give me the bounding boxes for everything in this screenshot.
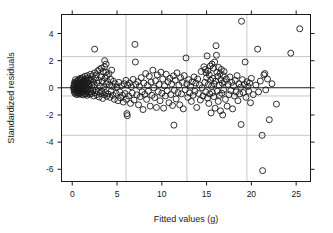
x-tick-label-2: 10 xyxy=(157,189,167,199)
y-tick-label-5: -6 xyxy=(46,164,54,174)
scatter-plot-svg: 0510152025 420-2-4-6 Fitted values (g) S… xyxy=(0,0,333,233)
y-tick-label-0: 4 xyxy=(49,29,54,39)
y-tick-label-4: -4 xyxy=(46,137,54,147)
x-tick-label-4: 20 xyxy=(247,189,257,199)
x-axis-title: Fitted values (g) xyxy=(154,214,219,224)
y-tick-label-1: 2 xyxy=(49,56,54,66)
x-tick-label-5: 25 xyxy=(291,189,301,199)
x-tick-label-0: 0 xyxy=(70,189,75,199)
x-tick-label-3: 15 xyxy=(202,189,212,199)
y-axis-title: Standardized residuals xyxy=(6,52,16,144)
residual-plot-figure: 0510152025 420-2-4-6 Fitted values (g) S… xyxy=(0,0,333,233)
y-tick-label-3: -2 xyxy=(46,110,54,120)
x-tick-label-1: 5 xyxy=(115,189,120,199)
y-tick-label-2: 0 xyxy=(49,83,54,93)
